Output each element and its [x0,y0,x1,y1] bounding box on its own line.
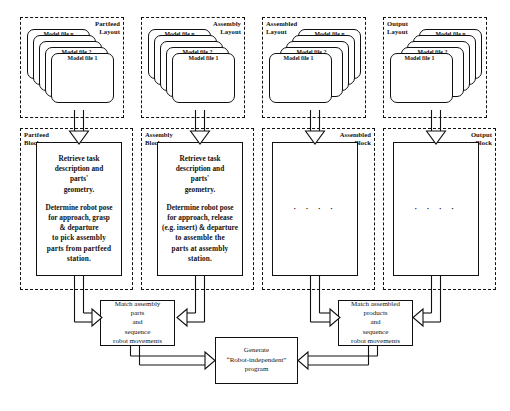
block-label-line1: Assembled [340,131,371,138]
layout-label-line2: Layout [266,28,287,35]
layout-label-line1: Assembly [213,20,241,27]
layout-group-assembly: Assembly Layout Model file n Model file … [141,17,245,118]
process-box-assembly-text: Retrieve task description and parts' geo… [160,154,240,264]
pf-p2l3: & departure [60,223,99,232]
block-label-line1: Output [471,131,492,138]
generate-program-box: Generate “Robot-independent” program [215,337,298,384]
process-box-output: · · · · [393,142,479,276]
mb0-l1: Match assembly [115,300,161,308]
pf-p1l2: description and [55,164,103,173]
mb0-l5: robot movements [113,337,162,345]
mb1-l1: Match assembled [351,300,400,308]
layout-label-line2: Layout [220,28,241,35]
as-p2l2: for approach, release [167,213,232,222]
mb1-l5: robot movements [351,337,400,345]
pf-p1l1: Retrieve task [58,154,99,163]
pf-p2l1: Determine robot pose [45,203,112,212]
mb1-l2: products [363,309,387,317]
match-box-assembled-products-text: Match assembled products and sequence ro… [349,300,402,346]
diagram-canvas: Partfeed Layout Model file n Model file … [0,0,510,411]
gb-l1: Generate [244,346,269,354]
process-box-output-text: · · · · [412,204,459,214]
layout-group-output: Output Layout Model file n Model file 2 … [383,17,487,118]
pf-p2l2: for approach, grasp [48,213,110,222]
gb-l2: “Robot-independent” [227,356,287,364]
mb1-l3: and [370,318,380,326]
process-box-assembly: Retrieve task description and parts' geo… [157,142,243,276]
as-p1l3: parts' [191,174,209,183]
mb0-l4: sequence [125,328,151,336]
mb0-l3: and [132,318,142,326]
process-box-partfeed-text: Retrieve task description and parts' geo… [43,154,114,264]
as-p1l1: Retrieve task [179,154,220,163]
arrow-match-assembled-to-generate [298,346,378,369]
match-box-assembly-parts: Match assembly parts and sequence robot … [100,300,175,346]
mb0-l2: parts [131,309,145,317]
match-box-assembly-parts-text: Match assembly parts and sequence robot … [111,300,164,346]
pf-b3: station. [67,254,91,263]
process-box-assembled-text: · · · · [291,204,338,214]
pf-p1l4: geometry. [64,185,95,194]
as-b1: to assemble the [175,233,225,242]
as-p1l2: description and [176,164,224,173]
as-p2l3: (e.g. insert) & departure [162,223,238,232]
block-label-line1: Assembly [145,131,173,138]
as-p2l1: Determine robot pose [166,203,233,212]
as-b3: station. [188,254,212,263]
model-file-card-label: Model file 1 [51,55,114,62]
process-box-partfeed: Retrieve task description and parts' geo… [36,142,122,276]
layout-label-line2: Layout [387,28,408,35]
model-file-card-label: Model file 1 [388,55,451,62]
gb-l3: program [245,365,269,373]
layout-label-line1: Output [387,20,408,27]
model-file-card-label: Model file 1 [267,55,330,62]
block-label-line1: Partfeed [24,131,49,138]
pf-b2: parts from partfeed [47,244,111,253]
layout-label-line1: Partfeed [95,20,120,27]
pf-b1: to pick assembly [52,233,106,242]
layout-label-line2: Layout [99,28,120,35]
process-box-assembled: · · · · [272,142,358,276]
layout-label-line1: Assembled [266,20,297,27]
as-p1l4: geometry. [185,185,216,194]
match-box-assembled-products: Match assembled products and sequence ro… [338,300,413,346]
layout-group-assembled: Assembled Layout Model file n Model file… [262,17,366,118]
arrow-match-assembly-to-generate [131,346,216,369]
model-file-card-label: Model file 1 [172,55,235,62]
mb1-l4: sequence [363,328,389,336]
generate-program-text: Generate “Robot-independent” program [225,346,289,375]
layout-group-partfeed: Partfeed Layout Model file n Model file … [20,17,124,118]
as-b2: parts at assembly [172,244,229,253]
pf-p1l3: parts' [70,174,88,183]
